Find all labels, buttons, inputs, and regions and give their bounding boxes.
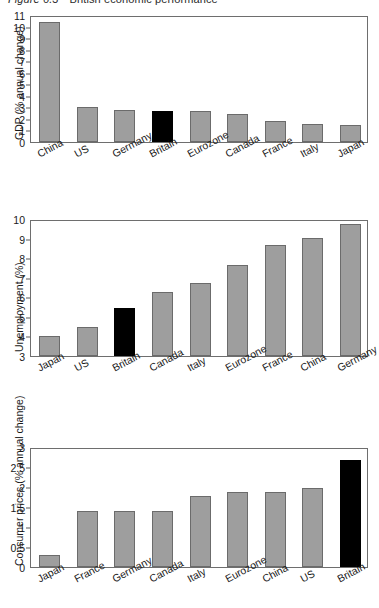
bar-consumer-prices-canada xyxy=(152,511,173,567)
y-tick-label: 2.5 xyxy=(10,463,25,473)
bars-layer-consumer-prices xyxy=(31,449,367,567)
y-tick-label: 3 xyxy=(19,443,25,453)
plot-frame-consumer-prices xyxy=(30,448,368,568)
bar-consumer-prices-germany xyxy=(114,511,135,567)
y-tick-mark xyxy=(26,548,30,549)
y-tick-mark xyxy=(26,508,30,509)
y-tick-label: 0 xyxy=(19,563,25,573)
bar-consumer-prices-china xyxy=(265,492,286,567)
y-tick-label: 0.5 xyxy=(10,543,25,553)
bar-consumer-prices-italy xyxy=(190,496,211,567)
y-tick-label: 1 xyxy=(19,523,25,533)
y-tick-label: 2 xyxy=(19,483,25,493)
bar-consumer-prices-france xyxy=(77,511,98,567)
x-label-consumer-prices-us: US xyxy=(298,567,317,584)
bar-consumer-prices-us xyxy=(302,488,323,567)
y-tick-mark xyxy=(26,528,30,529)
y-tick-mark xyxy=(26,468,30,469)
y-ticks-consumer-prices: 00.511.522.53 xyxy=(4,448,30,568)
y-tick-label: 1.5 xyxy=(10,503,25,513)
bar-consumer-prices-britain xyxy=(340,460,361,567)
y-tick-mark xyxy=(26,488,30,489)
bar-consumer-prices-eurozone xyxy=(227,492,248,567)
